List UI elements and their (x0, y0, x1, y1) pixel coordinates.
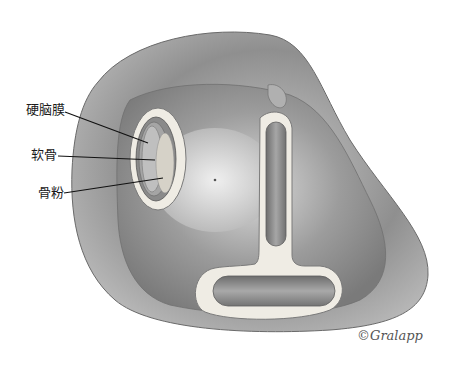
illustration (0, 0, 459, 376)
label-bone-powder: 骨粉 (38, 186, 64, 199)
anatomy-drawing (0, 0, 459, 376)
label-cartilage: 软骨 (31, 148, 57, 161)
label-dura: 硬脑膜 (26, 103, 65, 116)
artist-signature: ©Gralapp (357, 328, 423, 343)
